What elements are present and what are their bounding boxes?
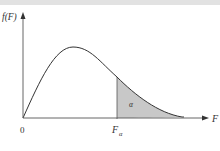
density-curve: [23, 47, 184, 118]
alpha-shaded-region: [117, 77, 182, 118]
x-axis-arrow-icon: [202, 116, 209, 121]
y-axis-label: f(F): [2, 12, 17, 23]
x-axis-label: F: [211, 113, 219, 124]
y-axis-arrow-icon: [21, 12, 26, 19]
origin-label: 0: [20, 125, 25, 135]
chart-svg: f(F) F 0 F α α: [0, 0, 220, 151]
critical-value-label: F: [111, 124, 119, 135]
critical-value-subscript: α: [119, 130, 123, 137]
f-distribution-chart: f(F) F 0 F α α: [0, 0, 220, 151]
